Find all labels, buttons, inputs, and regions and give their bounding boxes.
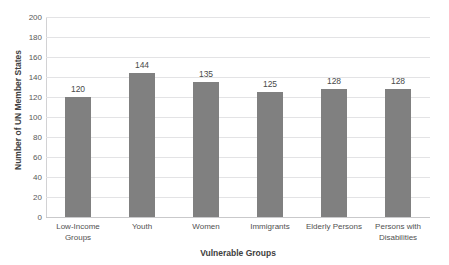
bar-chart: Number of UN Member States 0204060801001… (0, 0, 449, 265)
bar-slot: 135 (174, 17, 238, 217)
x-tick-label: Low-Income Groups (46, 221, 110, 243)
y-tick-label: 140 (4, 73, 42, 82)
y-tick-label: 180 (4, 33, 42, 42)
bar[interactable] (193, 82, 219, 217)
bar-value-label: 144 (135, 60, 149, 70)
y-tick-label: 20 (4, 193, 42, 202)
bar[interactable] (65, 97, 91, 217)
bar-slot: 128 (366, 17, 430, 217)
x-tick-label: Elderly Persons (302, 221, 366, 232)
x-tick-label: Women (174, 221, 238, 232)
x-axis-line (46, 217, 430, 218)
bar-slot: 125 (238, 17, 302, 217)
x-axis-title: Vulnerable Groups (46, 248, 430, 258)
bar-slot: 120 (46, 17, 110, 217)
bar[interactable] (257, 92, 283, 217)
x-tick-label: Youth (110, 221, 174, 232)
bar[interactable] (129, 73, 155, 217)
y-tick-label: 200 (4, 13, 42, 22)
plot-area: 120144135125128128 (46, 17, 430, 217)
y-tick-label: 40 (4, 173, 42, 182)
x-tick-label: Immigrants (238, 221, 302, 232)
y-tick-label: 80 (4, 133, 42, 142)
y-tick-label: 160 (4, 53, 42, 62)
x-tick-label: Persons with Disabilities (366, 221, 430, 243)
bar-value-label: 128 (391, 76, 405, 86)
bar[interactable] (321, 89, 347, 217)
bar-value-label: 128 (327, 76, 341, 86)
x-axis-tick-labels: Low-Income GroupsYouthWomenImmigrantsEld… (46, 221, 430, 251)
y-tick-label: 60 (4, 153, 42, 162)
y-tick-label: 120 (4, 93, 42, 102)
bar[interactable] (385, 89, 411, 217)
bar-slot: 144 (110, 17, 174, 217)
bar-slot: 128 (302, 17, 366, 217)
y-axis-tick-labels: 020406080100120140160180200 (0, 17, 42, 217)
bar-value-label: 120 (71, 84, 85, 94)
bar-value-label: 135 (199, 69, 213, 79)
y-tick-label: 0 (4, 213, 42, 222)
y-tick-label: 100 (4, 113, 42, 122)
bar-value-label: 125 (263, 79, 277, 89)
